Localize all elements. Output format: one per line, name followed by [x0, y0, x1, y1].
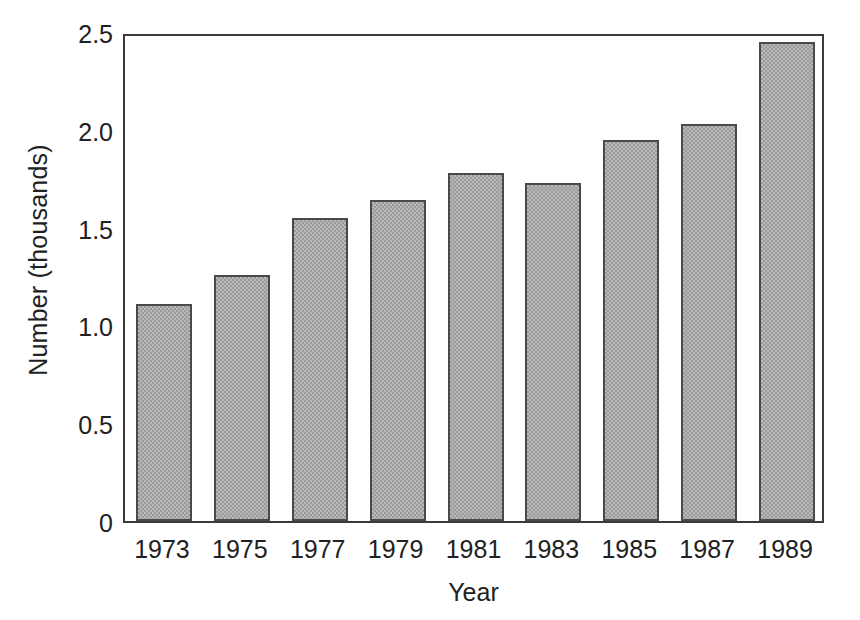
x-axis-tick-labels: 197319751977197919811983198519871989: [123, 535, 824, 569]
y-axis-tick-label: 2.0: [58, 117, 113, 146]
y-axis-tick-label: 1.5: [58, 215, 113, 244]
x-axis-tick-label: 1975: [212, 535, 268, 564]
bar-chart-figure: Number (thousands) 00.51.01.52.02.5 1973…: [0, 0, 860, 620]
bar: [603, 140, 659, 521]
x-axis-tick-label: 1985: [601, 535, 657, 564]
x-axis-tick-label: 1987: [679, 535, 735, 564]
bar: [681, 124, 737, 521]
x-axis-tick-label: 1983: [524, 535, 580, 564]
bar: [292, 218, 348, 521]
y-axis-title: Number (thousands): [16, 0, 60, 520]
x-axis-tick-label: 1981: [446, 535, 502, 564]
bar: [759, 42, 815, 521]
x-axis-tick-label: 1989: [757, 535, 813, 564]
x-axis-tick-label: 1973: [134, 535, 190, 564]
bar-series: [125, 36, 822, 521]
x-axis-tick-label: 1979: [368, 535, 424, 564]
y-axis-tick-label: 0: [58, 509, 113, 538]
y-axis-tick-label: 2.5: [58, 20, 113, 49]
y-axis-tick-label: 0.5: [58, 411, 113, 440]
x-axis-tick-label: 1977: [290, 535, 346, 564]
bar: [525, 183, 581, 521]
bar: [370, 200, 426, 521]
x-axis-title: Year: [123, 578, 824, 607]
bar: [214, 275, 270, 521]
bar: [136, 304, 192, 521]
y-axis-tick-labels: 00.51.01.52.02.5: [58, 0, 113, 620]
bar: [448, 173, 504, 521]
y-axis-tick-label: 1.0: [58, 313, 113, 342]
plot-area: [123, 34, 824, 523]
